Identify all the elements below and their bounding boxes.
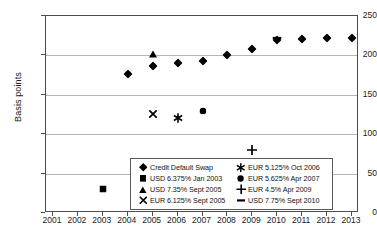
x-axis-tick-mark — [326, 212, 327, 216]
data-point-diamond — [298, 34, 307, 43]
legend-item: USD 7.75% Sept 2010 — [234, 195, 328, 206]
data-point-cross-x — [148, 109, 157, 118]
x-axis-tick-mark — [152, 212, 153, 216]
x-axis-tick-mark — [77, 212, 78, 216]
legend-marker-diamond-icon — [136, 162, 150, 173]
legend-label: EUR 5.625% Apr 2007 — [248, 175, 319, 183]
chart-legend: Credit Default SwapUSD 6.375% Jan 2003US… — [130, 158, 333, 210]
x-axis-tick-mark — [351, 212, 352, 216]
legend-item: EUR 5.625% Apr 2007 — [234, 173, 328, 184]
legend-label: Credit Default Swap — [150, 164, 213, 172]
y-axis-title: Basis points — [13, 52, 23, 142]
data-point-plus — [247, 144, 258, 155]
legend-marker-asterisk-icon — [234, 162, 248, 173]
data-point-diamond — [123, 70, 132, 79]
legend-item: Credit Default Swap — [136, 162, 230, 173]
x-axis-tick-mark — [177, 212, 178, 216]
legend-label: USD 7.75% Sept 2010 — [248, 197, 319, 205]
x-axis-tick-mark — [127, 212, 128, 216]
data-point-diamond — [248, 45, 257, 54]
legend-label: EUR 6.125% Sept 2005 — [150, 197, 225, 205]
x-axis-tick-mark — [301, 212, 302, 216]
data-point-triangle — [149, 50, 157, 58]
data-point-dash — [273, 36, 282, 41]
legend-label: EUR 5.125% Oct 2006 — [248, 164, 320, 172]
data-point-asterisk — [173, 113, 183, 123]
x-axis-tick-mark — [276, 212, 277, 216]
x-axis-tick-mark — [251, 212, 252, 216]
legend-item: USD 7.35% Sept 2005 — [136, 184, 230, 195]
data-point-square — [99, 186, 106, 193]
legend-label: USD 7.35% Sept 2005 — [150, 186, 221, 194]
x-axis-tick-mark — [102, 212, 103, 216]
x-axis-tick-mark — [226, 212, 227, 216]
data-point-diamond — [348, 34, 357, 43]
legend-marker-dash-icon — [234, 195, 248, 206]
gridline — [46, 134, 357, 135]
y-axis-tick-mark — [41, 212, 45, 213]
gridline — [46, 95, 357, 96]
legend-marker-plus-icon — [234, 184, 248, 195]
legend-item: EUR 6.125% Sept 2005 — [136, 195, 230, 206]
data-point-diamond — [148, 62, 157, 71]
legend-marker-circle-icon — [234, 173, 248, 184]
legend-item: USD 6.375% Jan 2003 — [136, 173, 230, 184]
x-axis-tick-mark — [52, 212, 53, 216]
legend-marker-cross-x-icon — [136, 195, 150, 206]
scatter-chart: Basis points 050100150200250 20012002200… — [0, 0, 377, 243]
legend-label: EUR 4.5% Apr 2009 — [248, 186, 311, 194]
legend-item: EUR 4.5% Apr 2009 — [234, 184, 328, 195]
legend-marker-square-icon — [136, 173, 150, 184]
legend-item: EUR 5.125% Oct 2006 — [234, 162, 328, 173]
legend-label: USD 6.375% Jan 2003 — [150, 175, 222, 183]
legend-marker-triangle-icon — [136, 184, 150, 195]
data-point-diamond — [173, 59, 182, 68]
data-point-circle — [199, 107, 207, 115]
x-axis-tick-mark — [202, 212, 203, 216]
data-point-diamond — [323, 34, 332, 43]
data-point-diamond — [223, 50, 232, 59]
data-point-diamond — [198, 56, 207, 65]
x-axis-tick-label: 2013 — [334, 216, 368, 225]
